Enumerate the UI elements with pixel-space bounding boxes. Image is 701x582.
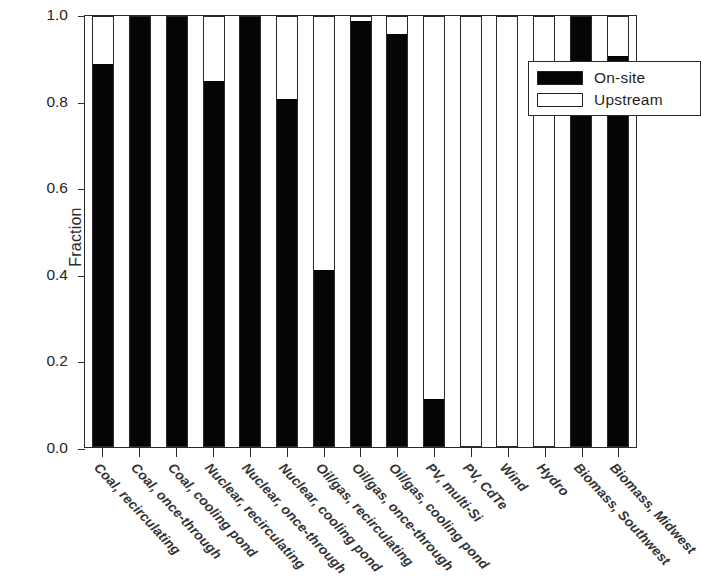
x-tick-cell <box>379 448 416 457</box>
x-tick-cell <box>489 448 526 457</box>
x-label-cell: Biomass, Southwest <box>563 458 600 582</box>
x-label-cell: Nuclear, once-through <box>231 458 268 582</box>
x-label-cell: Biomass, Midwest <box>600 458 637 582</box>
chart-legend: On-site Upstream <box>528 61 701 116</box>
y-axis-tick-label: 0.2 <box>46 352 68 370</box>
x-tick-cell <box>526 448 563 457</box>
x-label-cell: Coal, once-through <box>121 458 158 582</box>
stacked-bar <box>496 16 518 447</box>
stacked-bar <box>92 16 114 447</box>
x-tick-cell <box>600 448 637 457</box>
bar-slot <box>269 16 306 447</box>
y-axis-tick-label: 1.0 <box>46 6 68 24</box>
x-axis-tick-mark <box>213 448 214 457</box>
x-tick-cell <box>416 448 453 457</box>
x-axis-tick-mark <box>471 448 472 457</box>
bar-slot <box>342 16 379 447</box>
bar-segment-on-site <box>277 99 297 446</box>
x-tick-cell <box>268 448 305 457</box>
x-axis-tick-mark <box>287 448 288 457</box>
y-axis-tick-mark <box>78 16 85 17</box>
x-axis-tick-mark <box>250 448 251 457</box>
x-axis-tick-mark <box>434 448 435 457</box>
bar-slot <box>305 16 342 447</box>
stacked-bar <box>239 16 261 447</box>
x-axis-tick-mark <box>139 448 140 457</box>
y-axis-tick-label: 0.6 <box>46 179 68 197</box>
bar-slot <box>416 16 453 447</box>
legend-swatch-upstream-icon <box>537 93 583 107</box>
stacked-bar <box>460 16 482 447</box>
y-axis-tick-mark <box>78 362 85 363</box>
bar-segment-on-site <box>424 399 444 446</box>
x-axis-ticks <box>84 448 637 457</box>
bar-slot <box>452 16 489 447</box>
plot-area: On-site Upstream <box>84 15 637 448</box>
stacked-bar <box>203 16 225 447</box>
y-axis-tick-mark <box>78 189 85 190</box>
bar-segment-on-site <box>387 34 407 446</box>
legend-item-upstream: Upstream <box>537 89 692 111</box>
x-tick-cell <box>84 448 121 457</box>
bar-slot <box>379 16 416 447</box>
x-label-cell: Coal, recirculating <box>84 458 121 582</box>
bar-segment-on-site <box>240 17 260 446</box>
x-label-cell: Hydro <box>526 458 563 582</box>
x-axis-tick-mark <box>582 448 583 457</box>
x-label-cell: PV, CdTe <box>453 458 490 582</box>
y-axis-tick-mark <box>78 276 85 277</box>
x-axis-tick-mark <box>324 448 325 457</box>
y-axis-title: Fraction <box>67 157 85 317</box>
bar-segment-on-site <box>350 21 370 446</box>
x-tick-cell <box>563 448 600 457</box>
x-axis-tick-mark <box>176 448 177 457</box>
x-label-cell: Nuclear, cooling pond <box>268 458 305 582</box>
x-tick-cell <box>305 448 342 457</box>
stacked-bar <box>386 16 408 447</box>
bar-slot <box>489 16 526 447</box>
x-tick-cell <box>453 448 490 457</box>
bar-segment-on-site <box>130 17 150 446</box>
stacked-bar <box>129 16 151 447</box>
x-tick-cell <box>158 448 195 457</box>
bar-segment-on-site <box>204 81 224 446</box>
x-tick-cell <box>121 448 158 457</box>
x-label-cell: Coal, cooling pond <box>158 458 195 582</box>
x-axis-tick-mark <box>618 448 619 457</box>
x-label-cell: PV, multi-Si <box>416 458 453 582</box>
x-label-cell: Oil/gas, recirculating <box>305 458 342 582</box>
x-label-cell: Oil/gas, cooling pond <box>379 458 416 582</box>
y-axis-tick-mark <box>78 103 85 104</box>
y-axis-tick-label: 0.0 <box>46 439 68 457</box>
bar-segment-on-site <box>167 17 187 446</box>
y-axis-tick-label: 0.8 <box>46 93 68 111</box>
x-tick-cell <box>195 448 232 457</box>
legend-label-on-site: On-site <box>594 69 645 87</box>
stacked-bar <box>313 16 335 447</box>
legend-item-on-site: On-site <box>537 67 692 89</box>
stacked-bar <box>349 16 371 447</box>
x-tick-cell <box>342 448 379 457</box>
stacked-bar <box>166 16 188 447</box>
x-axis-tick-mark <box>360 448 361 457</box>
x-label-cell: Wind <box>489 458 526 582</box>
bar-slot <box>85 16 122 447</box>
x-axis-tick-labels: Coal, recirculatingCoal, once-throughCoa… <box>84 458 637 582</box>
bar-segment-on-site <box>314 270 334 446</box>
x-axis-tick-mark <box>397 448 398 457</box>
bar-slot <box>232 16 269 447</box>
bar-slot <box>195 16 232 447</box>
legend-swatch-on-site-icon <box>537 71 583 85</box>
bar-slot <box>158 16 195 447</box>
bar-segment-on-site <box>93 64 113 446</box>
legend-label-upstream: Upstream <box>594 91 663 109</box>
y-axis-tick-label: 0.4 <box>46 266 68 284</box>
bar-slot <box>122 16 159 447</box>
x-axis-tick-mark <box>508 448 509 457</box>
stacked-bar <box>423 16 445 447</box>
x-axis-tick-mark <box>545 448 546 457</box>
x-label-cell: Nuclear, recirculating <box>195 458 232 582</box>
x-tick-cell <box>231 448 268 457</box>
x-axis-tick-mark <box>102 448 103 457</box>
